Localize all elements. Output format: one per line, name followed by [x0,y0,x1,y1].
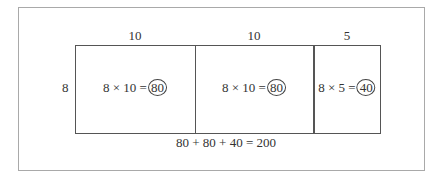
equation-expression: 8 × 5 = [318,80,355,96]
circled-result: 80 [267,79,286,96]
cell-equation-2: 8 × 10 = 80 [222,79,286,96]
equation-expression: 8 × 10 = [103,80,147,96]
cell-equation-3: 8 × 5 = 40 [318,79,375,96]
circled-result: 80 [148,79,167,96]
circled-result: 40 [357,79,376,96]
height-label: 8 [62,81,69,95]
width-label-1: 10 [115,29,155,43]
equation-expression: 8 × 10 = [222,80,266,96]
cell-equation-1: 8 × 10 = 80 [103,79,167,96]
width-label-2: 10 [234,29,274,43]
width-label-3: 5 [327,29,367,43]
sum-equation: 80 + 80 + 40 = 200 [176,135,276,151]
